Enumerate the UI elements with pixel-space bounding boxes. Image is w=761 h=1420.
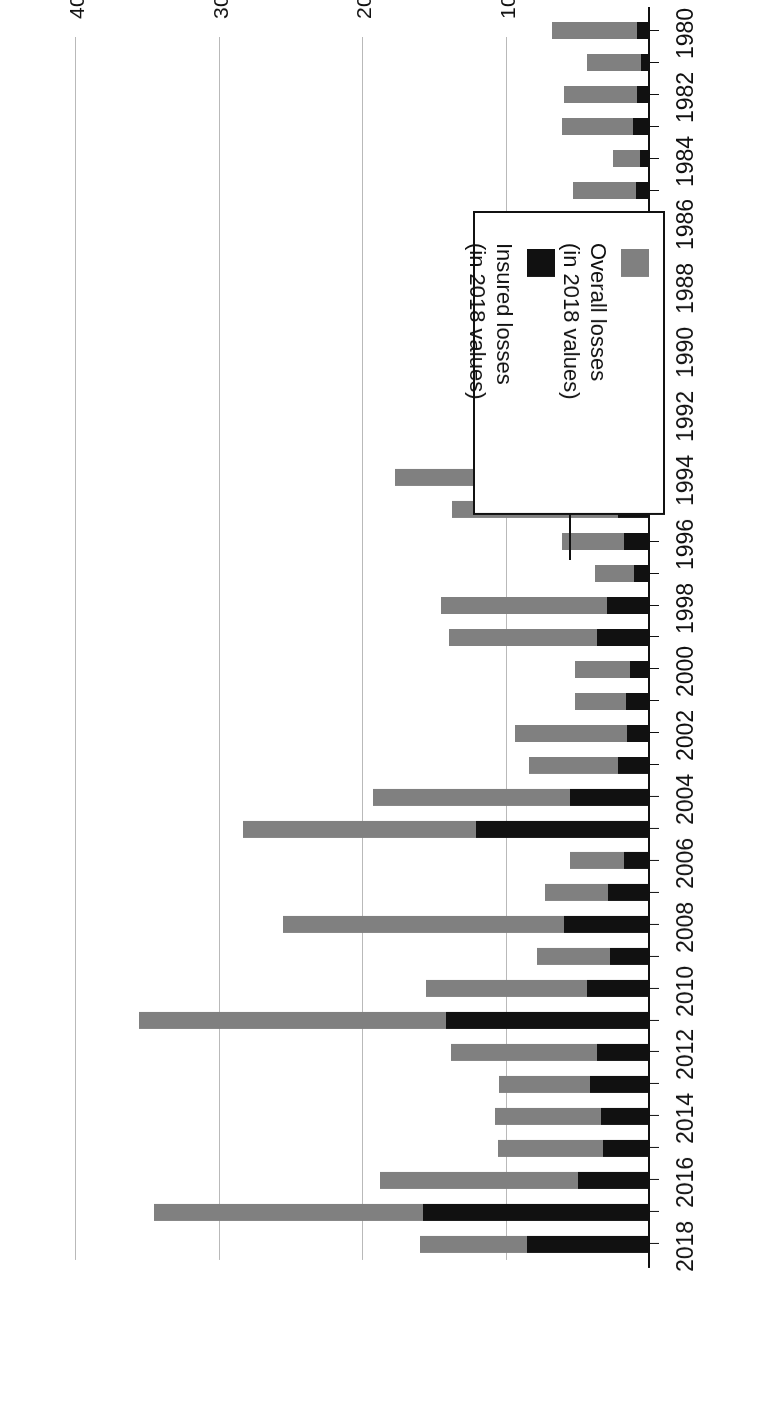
bar-segment-overall-losses [451, 1044, 597, 1061]
bar-segment-insured-losses [603, 1140, 650, 1157]
bar-row [33, 118, 650, 135]
bar-segment-overall-losses [545, 884, 608, 901]
bar-segment-insured-losses [610, 948, 650, 965]
bar-segment-insured-losses [633, 118, 650, 135]
bar-segment-overall-losses [283, 916, 564, 933]
bar-segment-overall-losses [380, 1172, 578, 1189]
bar-segment-insured-losses [641, 54, 650, 71]
bar-segment-overall-losses [595, 565, 634, 582]
bar-row [33, 182, 650, 199]
bar-row [33, 884, 650, 901]
legend-swatch-insured-losses [527, 249, 555, 277]
bar-segment-overall-losses [441, 597, 607, 614]
bar-row [33, 693, 650, 710]
bar-segment-insured-losses [587, 980, 650, 997]
bar-segment-insured-losses [564, 916, 650, 933]
bar-row [33, 86, 650, 103]
bar-row [33, 597, 650, 614]
category-tick [650, 892, 659, 893]
bar-segment-insured-losses [624, 533, 650, 550]
category-tick [650, 700, 659, 701]
bar-segment-overall-losses [613, 150, 640, 167]
x-tick-label-100: 100 [496, 0, 520, 19]
bar-segment-overall-losses [570, 852, 625, 869]
bar-segment-insured-losses [630, 661, 650, 678]
bar-row [33, 852, 650, 869]
x-tick-label-200: 200 [352, 0, 376, 19]
bar-segment-overall-losses [154, 1204, 424, 1221]
bar-segment-overall-losses [139, 1012, 446, 1029]
bar-row [33, 629, 650, 646]
bar-segment-insured-losses [570, 789, 650, 806]
bar-segment-overall-losses [373, 789, 570, 806]
bar-row [33, 661, 650, 678]
legend-swatch-overall-losses [621, 249, 649, 277]
bar-segment-insured-losses [601, 1108, 650, 1125]
category-label-1994: 1994 [672, 455, 699, 506]
plot-area [33, 15, 650, 1260]
bar-segment-insured-losses [590, 1076, 650, 1093]
category-label-1992: 1992 [672, 391, 699, 442]
category-tick [650, 732, 659, 733]
bar-row [33, 1204, 650, 1221]
category-tick [650, 764, 659, 765]
bar-segment-insured-losses [527, 1236, 650, 1253]
bar-row [33, 533, 650, 550]
category-tick [650, 1020, 659, 1021]
category-tick [650, 924, 659, 925]
bar-row [33, 1172, 650, 1189]
category-tick [650, 94, 659, 95]
category-label-1996: 1996 [672, 519, 699, 570]
bar-row [33, 821, 650, 838]
x-tick-label-300: 300 [209, 0, 233, 19]
bar-segment-overall-losses [515, 725, 627, 742]
category-tick [650, 573, 659, 574]
bar-segment-insured-losses [607, 597, 650, 614]
bar-segment-overall-losses [575, 661, 630, 678]
category-tick [650, 190, 659, 191]
bar-row [33, 725, 650, 742]
category-label-1998: 1998 [672, 582, 699, 633]
bar-row [33, 22, 650, 39]
bar-segment-overall-losses [243, 821, 477, 838]
category-tick [650, 637, 659, 638]
bar-row [33, 916, 650, 933]
bar-row [33, 948, 650, 965]
bar-segment-overall-losses [564, 86, 637, 103]
bar-row [33, 1076, 650, 1093]
bar-segment-overall-losses [420, 1236, 526, 1253]
chart-legend: Overall losses (in 2018 values) Insured … [473, 211, 665, 515]
bar-row [33, 1012, 650, 1029]
bar-segment-insured-losses [446, 1012, 650, 1029]
bar-row [33, 1044, 650, 1061]
bar-segment-overall-losses [563, 533, 625, 550]
category-label-1984: 1984 [672, 135, 699, 186]
category-tick [650, 1147, 659, 1148]
bar-segment-insured-losses [637, 86, 650, 103]
bar-segment-insured-losses [608, 884, 650, 901]
category-tick [650, 956, 659, 957]
category-label-1980: 1980 [672, 8, 699, 59]
bar-segment-overall-losses [563, 118, 633, 135]
category-label-1986: 1986 [672, 199, 699, 250]
legend-label-overall-losses: Overall losses (in 2018 values) [557, 243, 611, 400]
category-label-1990: 1990 [672, 327, 699, 378]
bar-segment-overall-losses [575, 693, 625, 710]
bar-row [33, 1108, 650, 1125]
category-label-2016: 2016 [672, 1157, 699, 1208]
bar-row [33, 1236, 650, 1253]
category-tick [650, 1211, 659, 1212]
bar-segment-overall-losses [573, 182, 636, 199]
chart-figure: 100200300400US$ bn1980198219841986198819… [0, 0, 761, 1420]
category-tick [650, 30, 659, 31]
bar-segment-insured-losses [597, 1044, 650, 1061]
bar-segment-overall-losses [498, 1140, 603, 1157]
x-tick-label-400: 400 [65, 0, 89, 19]
category-tick [650, 1243, 659, 1244]
bar-row [33, 757, 650, 774]
bar-segment-overall-losses [529, 757, 618, 774]
bar-segment-insured-losses [597, 629, 650, 646]
bar-segment-overall-losses [495, 1108, 601, 1125]
category-label-2018: 2018 [672, 1221, 699, 1272]
category-label-1982: 1982 [672, 72, 699, 123]
